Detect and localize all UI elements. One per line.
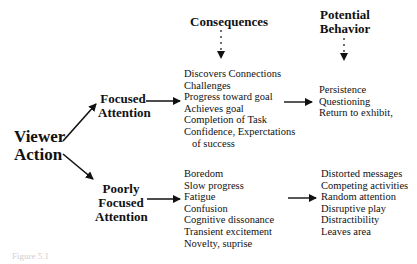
list-item: Distractibility [321,214,408,226]
focused-attention-node: Focused Attention [98,92,148,120]
list-item: Confusion [184,203,274,215]
to-focused-arrow [63,104,96,141]
focused-consequences-list: Discovers Connections Challenges Progres… [184,68,295,149]
list-item: Return to exhibit, [319,107,393,119]
focused-attention-line1: Focused [98,92,148,106]
list-item: Cognitive dissonance [184,214,274,226]
list-item: Random attention [321,191,408,203]
list-item: Leaves area [321,226,408,238]
list-item: Fatigue [184,191,274,203]
poorly-focused-line1: Poorly [95,182,147,196]
poorly-focused-line2: Focused [95,196,147,210]
to-poorly-focused-arrow [63,154,93,179]
list-item: Competing activities [321,180,408,192]
potential-behavior-header-line1: Potential [315,8,375,22]
list-item: Completion of Task [184,114,295,126]
poorly-behaviors-list: Distorted messages Competing activities … [321,168,408,238]
list-item: Boredom [184,168,274,180]
list-item: Achieves goal [184,103,295,115]
focused-behaviors-list: Persistence Questioning Return to exhibi… [319,84,393,119]
list-item: Persistence [319,84,393,96]
focused-attention-line2: Attention [98,106,148,120]
list-item: Slow progress [184,180,274,192]
viewer-action-line2: Action [14,146,65,164]
list-item: Novelty, suprise [184,238,274,250]
viewer-action-line1: Viewer [14,128,65,146]
poorly-focused-attention-node: Poorly Focused Attention [95,182,147,224]
figure-caption: Figure 5.1 [12,251,49,261]
list-item: Disruptive play [321,203,408,215]
potential-behavior-header-line2: Behavior [315,22,375,36]
consequences-header: Consequences [190,15,258,29]
list-item: Confidence, Experctations [184,126,295,138]
poorly-focused-line3: Attention [95,210,147,224]
viewer-action-node: Viewer Action [14,128,65,164]
list-item: Challenges [184,80,295,92]
list-item: Discovers Connections [184,68,295,80]
list-item: Transient excitement [184,226,274,238]
list-item: Progress toward goal [184,91,295,103]
potential-behavior-header: Potential Behavior [315,8,375,36]
poorly-consequences-list: Boredom Slow progress Fatigue Confusion … [184,168,274,249]
list-item: Distorted messages [321,168,408,180]
list-item: of success [184,138,295,150]
list-item: Questioning [319,96,393,108]
